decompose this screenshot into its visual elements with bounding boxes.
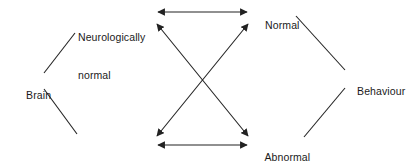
- node-normal: Normal: [253, 6, 300, 44]
- node-behaviour-label: Behaviour: [357, 85, 405, 97]
- edge-normal-to-behaviour: [296, 16, 345, 70]
- node-abnormal-label: Abnormal: [265, 151, 311, 163]
- edge-brain-to-neurologically-normal: [44, 33, 75, 73]
- node-neurologically-normal-line2: normal: [78, 69, 145, 82]
- node-normal-label: Normal: [265, 19, 299, 31]
- node-neurologically-abnormal-line1: Neurologically: [78, 163, 145, 164]
- node-brain-label: Brain: [26, 89, 51, 101]
- node-neurologically-normal: Neurologically normal: [78, 6, 145, 106]
- node-neurologically-normal-line1: Neurologically: [78, 31, 145, 44]
- node-neurologically-abnormal: Neurologically abnormal: [78, 138, 145, 164]
- edge-abnormal-to-behaviour: [304, 88, 345, 137]
- node-brain: Brain: [14, 76, 51, 114]
- node-abnormal: Abnormal: [253, 138, 310, 164]
- diagram-canvas: Brain Neurologically normal Neurological…: [0, 0, 408, 164]
- node-behaviour: Behaviour: [345, 72, 405, 110]
